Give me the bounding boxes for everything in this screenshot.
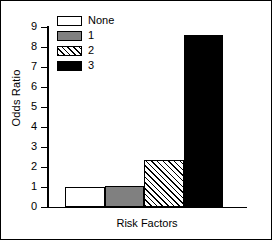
y-tick-label: 1 [1, 181, 37, 192]
y-tick-mark [41, 147, 47, 148]
x-axis-line [47, 207, 247, 209]
legend-item-2: 2 [57, 44, 114, 57]
legend-label: 1 [88, 30, 94, 41]
legend-item-none: None [57, 14, 114, 27]
x-axis-title: Risk Factors [47, 217, 247, 229]
plot-area: 0123456789 Odds Ratio Risk Factors None1… [1, 1, 272, 240]
bar-3 [184, 35, 224, 207]
bar-1 [105, 186, 145, 207]
legend-swatch-gray [57, 31, 82, 41]
bar-none [65, 187, 105, 207]
y-tick-mark [41, 207, 47, 208]
y-tick-mark [41, 87, 47, 88]
y-tick-mark [41, 107, 47, 108]
figure-panel: 0123456789 Odds Ratio Risk Factors None1… [0, 0, 272, 240]
legend-swatch-none [57, 16, 82, 26]
y-tick-label: 0 [1, 201, 37, 212]
y-tick-mark [41, 167, 47, 168]
legend-label: 2 [88, 45, 94, 56]
legend-label: 3 [88, 60, 94, 71]
legend: None123 [57, 14, 114, 74]
y-axis-title-wrapper: Odds Ratio [6, 38, 24, 158]
legend-label: None [88, 15, 114, 26]
y-tick-mark [41, 47, 47, 48]
legend-item-3: 3 [57, 59, 114, 72]
y-tick-label: 9 [1, 21, 37, 32]
y-axis-line [47, 26, 49, 207]
y-tick-mark [41, 27, 47, 28]
legend-swatch-hatch [57, 46, 82, 56]
y-tick-mark [41, 187, 47, 188]
legend-swatch-black [57, 61, 82, 71]
y-tick-mark [41, 67, 47, 68]
bar-2 [144, 160, 184, 207]
legend-item-1: 1 [57, 29, 114, 42]
y-tick-label: 2 [1, 161, 37, 172]
y-axis-title: Odds Ratio [10, 69, 22, 126]
y-tick-mark [41, 127, 47, 128]
